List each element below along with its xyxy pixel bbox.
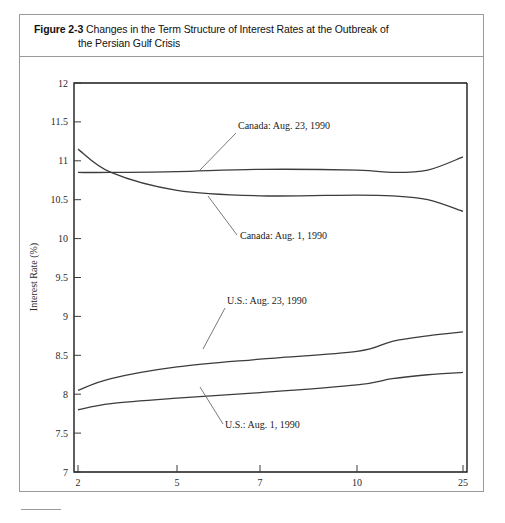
annotation-canada-aug-1: Canada: Aug. 1, 1990 <box>208 196 327 241</box>
curve-canada-aug-1 <box>78 149 463 211</box>
x-axis-ticks <box>78 465 463 472</box>
plot-frame <box>74 83 467 472</box>
line-chart: 7 7.5 8 8.5 9 9.5 10 10.5 11 11.5 12 <box>20 57 485 492</box>
x-tick-label: 7 <box>258 477 263 488</box>
y-axis-title: Interest Rate (%) <box>28 243 40 311</box>
y-tick-label: 9.5 <box>56 272 69 283</box>
y-axis-ticks <box>74 83 81 472</box>
x-axis-tick-labels: 2 5 7 10 25 <box>76 477 469 488</box>
y-tick-label: 10.5 <box>51 194 69 205</box>
figure-container: Figure 2-3 Changes in the Term Structure… <box>19 14 484 492</box>
y-tick-label: 8.5 <box>56 350 69 361</box>
y-tick-label: 8 <box>63 389 68 400</box>
series-label-us-aug-23: U.S.: Aug. 23, 1990 <box>227 295 307 306</box>
curve-us-aug-23 <box>78 332 463 390</box>
figure-caption: Figure 2-3 Changes in the Term Structure… <box>34 22 469 50</box>
y-tick-label: 12 <box>58 78 68 89</box>
plot-region: 7 7.5 8 8.5 9 9.5 10 10.5 11 11.5 12 <box>20 57 485 492</box>
x-tick-label: 2 <box>76 477 81 488</box>
x-tick-label: 25 <box>458 477 468 488</box>
series-label-canada-aug-1: Canada: Aug. 1, 1990 <box>240 230 327 241</box>
series-label-us-aug-1: U.S.: Aug. 1, 1990 <box>225 419 300 430</box>
y-tick-label: 11 <box>58 155 68 166</box>
figure-title-bar: Figure 2-3 Changes in the Term Structure… <box>20 15 483 57</box>
x-tick-label: 5 <box>175 477 180 488</box>
y-axis-tick-labels: 7 7.5 8 8.5 9 9.5 10 10.5 11 11.5 12 <box>51 78 69 478</box>
figure-number-label: Figure 2-3 <box>34 23 83 35</box>
series-label-canada-aug-23: Canada: Aug. 23, 1990 <box>238 120 330 131</box>
annotation-canada-aug-23: Canada: Aug. 23, 1990 <box>200 120 330 170</box>
annotation-us-aug-23: U.S.: Aug. 23, 1990 <box>203 295 307 349</box>
y-tick-label: 9 <box>63 311 68 322</box>
figure-title-line-2: the Persian Gulf Crisis <box>34 36 469 50</box>
curve-canada-aug-23 <box>78 157 463 173</box>
footer-divider-rule <box>21 509 61 510</box>
y-tick-label: 11.5 <box>51 116 68 127</box>
y-tick-label: 7.5 <box>56 428 69 439</box>
figure-title-line-1: Changes in the Term Structure of Interes… <box>86 23 389 35</box>
curve-us-aug-1 <box>78 372 463 409</box>
y-tick-label: 7 <box>63 467 68 478</box>
y-tick-label: 10 <box>58 233 68 244</box>
series-curves <box>78 149 463 410</box>
x-tick-label: 10 <box>352 477 362 488</box>
